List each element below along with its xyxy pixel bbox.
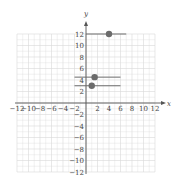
- y-tick-label: −4: [74, 123, 85, 131]
- x-tick-label: 8: [130, 105, 134, 113]
- x-tick-label: 2: [95, 105, 99, 113]
- y-tick-label: −12: [69, 169, 84, 177]
- y-tick-label: −2: [74, 111, 84, 119]
- coordinate-plane: −12−10−8−6−4−22468101212108642−2−4−6−8−1…: [0, 0, 174, 186]
- x-tick-label: −6: [46, 105, 57, 113]
- data-point: [106, 31, 112, 37]
- x-tick-label: 10: [139, 105, 148, 113]
- y-axis-arrow-icon: [84, 21, 88, 26]
- y-tick-label: 2: [80, 88, 84, 96]
- x-tick-label: −8: [35, 105, 45, 113]
- y-tick-label: 12: [75, 31, 84, 39]
- data-point: [89, 83, 95, 89]
- y-tick-label: 8: [80, 54, 84, 62]
- data-point: [91, 74, 97, 80]
- x-tick-label: 4: [107, 105, 112, 113]
- x-tick-label: −4: [58, 105, 69, 113]
- y-tick-label: 10: [75, 42, 84, 50]
- y-tick-label: −10: [69, 157, 84, 165]
- x-axis-arrow-icon: [161, 101, 166, 105]
- x-axis-label: x: [167, 100, 171, 108]
- y-tick-label: −8: [74, 146, 84, 154]
- x-tick-label: 12: [151, 105, 160, 113]
- y-tick-label: 4: [80, 77, 85, 85]
- y-tick-label: 6: [80, 65, 85, 73]
- y-tick-label: −6: [74, 134, 85, 142]
- x-tick-label: −10: [21, 105, 36, 113]
- y-axis-label: y: [83, 10, 89, 18]
- x-tick-label: 6: [118, 105, 123, 113]
